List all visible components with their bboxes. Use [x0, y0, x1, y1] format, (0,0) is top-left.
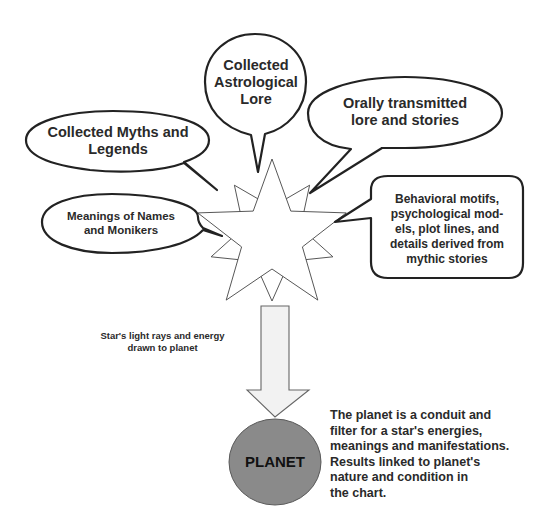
bubble-names-monikers-text: Meanings of Names and Monikers [46, 209, 196, 237]
bubble-astrological-lore-text: Collected Astrological Lore [208, 57, 304, 108]
arrow-label: Star's light rays and energy drawn to pl… [80, 330, 245, 354]
planet-note: The planet is a conduit and filter for a… [330, 408, 555, 501]
planet-label: PLANET [229, 453, 321, 471]
bubble-behavioral-motifs-text: Behavioral motifs, psychological mod- el… [372, 192, 522, 267]
bubble-myths-legends-text: Collected Myths and Legends [28, 124, 208, 158]
down-arrow [247, 306, 309, 417]
diagram-canvas: Collected Astrological Lore Collected My… [0, 0, 555, 532]
bubble-oral-lore-text: Orally transmitted lore and stories [320, 95, 490, 129]
